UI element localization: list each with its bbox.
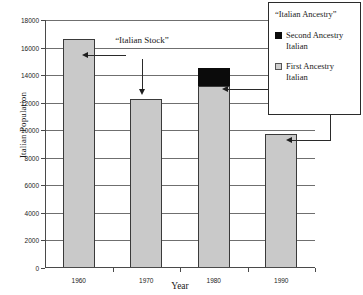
bar-segment-1980-first <box>198 86 230 268</box>
x-tick-mark <box>315 268 316 272</box>
connector-legend-drop <box>330 115 331 141</box>
y-tick-label: 4000 <box>25 209 39 216</box>
y-tick-label: 0 <box>35 265 39 272</box>
x-tick-mark <box>180 268 181 272</box>
legend-entry-second: Second Ancestry Italian <box>275 30 355 51</box>
bar-segment-1960-first <box>63 39 95 268</box>
x-tick-label-1980: 1980 <box>207 277 221 284</box>
y-tick-label: 18000 <box>21 17 39 24</box>
x-tick-label-1960: 1960 <box>72 277 86 284</box>
x-axis-line <box>45 267 315 268</box>
chart-figure: Italian Population Year 0200040006000800… <box>0 0 363 295</box>
y-tick-mark <box>41 268 45 269</box>
x-tick-mark <box>248 268 249 272</box>
annotation-italian-stock: “Italian Stock” <box>111 35 173 46</box>
x-tick-mark <box>113 268 114 272</box>
connector-legend-to-1980 <box>228 89 268 90</box>
bar-segment-1970-first <box>130 99 162 268</box>
y-tick-label: 2000 <box>25 237 39 244</box>
arrowhead-1970 <box>139 89 145 95</box>
y-tick-label: 6000 <box>25 182 39 189</box>
arrowhead-1980 <box>222 86 228 92</box>
black-swatch-icon <box>275 32 282 39</box>
legend-entry-first: First Ancestry Italian <box>275 61 355 82</box>
bar-segment-1990-first <box>265 134 297 268</box>
x-tick-label-1990: 1990 <box>274 277 288 284</box>
connector-stock-to-1960 <box>88 55 126 56</box>
connector-stock-to-1970 <box>142 59 143 90</box>
connector-legend-to-1990 <box>292 140 331 141</box>
y-tick-label: 10000 <box>21 127 39 134</box>
y-axis-line <box>45 20 46 268</box>
legend-label-second: Second Ancestry Italian <box>286 30 355 51</box>
legend-label-first: First Ancestry Italian <box>286 61 355 82</box>
legend-title: “Italian Ancestry” <box>275 9 355 19</box>
bar-segment-1980-second <box>198 68 230 86</box>
gray-swatch-icon <box>275 63 282 70</box>
bar-1960 <box>63 20 95 268</box>
bar-1970 <box>130 20 162 268</box>
legend-box: “Italian Ancestry” Second Ancestry Itali… <box>268 2 361 115</box>
x-tick-label-1970: 1970 <box>139 277 153 284</box>
y-tick-label: 16000 <box>21 44 39 51</box>
arrowhead-1990 <box>286 137 292 143</box>
bar-1980 <box>198 20 230 268</box>
y-tick-label: 12000 <box>21 99 39 106</box>
y-tick-label: 14000 <box>21 72 39 79</box>
y-tick-label: 8000 <box>25 154 39 161</box>
arrowhead-1960 <box>82 52 88 58</box>
